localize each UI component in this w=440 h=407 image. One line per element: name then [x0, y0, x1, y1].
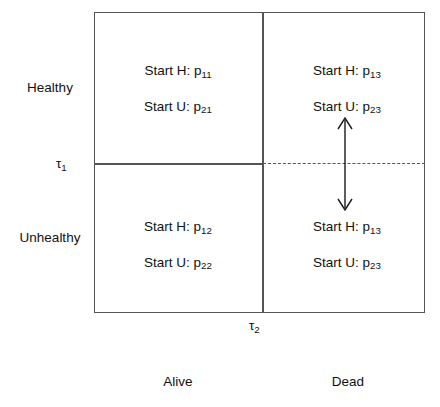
quadrant-top-right: Start H: p13 Start U: p23	[263, 64, 431, 113]
quadrant-top-left: Start H: p11 Start U: p21	[94, 64, 262, 113]
quadrant-top-left-start-h: Start H: p11	[94, 64, 262, 78]
start-h-subscript: 13	[370, 69, 381, 80]
start-u-subscript: 22	[201, 260, 212, 271]
quadrant-bottom-left-start-u: Start U: p22	[94, 256, 262, 270]
quadrant-bottom-left: Start H: p12 Start U: p22	[94, 220, 262, 269]
tau1-subscript: 1	[61, 162, 66, 173]
column-label-dead: Dead	[300, 374, 396, 389]
start-u-label: Start U: p	[313, 255, 370, 270]
start-u-label: Start U: p	[144, 255, 201, 270]
quadrant-bottom-right-start-u: Start U: p23	[263, 256, 431, 270]
quadrant-bottom-right-start-h: Start H: p13	[263, 220, 431, 234]
quadrant-bottom-right: Start H: p13 Start U: p23	[263, 220, 431, 269]
quadrant-top-right-start-h: Start H: p13	[263, 64, 431, 78]
column-label-dead-text: Dead	[332, 374, 364, 389]
quadrant-bottom-left-start-h: Start H: p12	[94, 220, 262, 234]
start-h-subscript: 12	[201, 225, 212, 236]
start-h-label: Start H: p	[313, 219, 370, 234]
start-u-subscript: 23	[370, 104, 381, 115]
row-label-healthy: Healthy	[10, 80, 90, 95]
threshold-label-tau1: τ1	[56, 156, 67, 171]
start-h-label: Start H: p	[313, 63, 370, 78]
double-headed-arrow-icon	[327, 112, 363, 216]
tau2-subscript: 2	[254, 324, 259, 335]
row-label-unhealthy-text: Unhealthy	[20, 230, 81, 245]
start-u-label: Start U: p	[144, 99, 201, 114]
quadrant-diagram: Healthy Unhealthy τ1 τ2 Start H: p11 Sta…	[0, 0, 440, 407]
horizontal-divider-solid-tau1	[94, 163, 263, 165]
column-label-alive: Alive	[130, 374, 226, 389]
start-u-subscript: 21	[201, 104, 212, 115]
start-h-subscript: 13	[370, 225, 381, 236]
quadrant-top-right-start-u: Start U: p23	[263, 100, 431, 114]
start-h-subscript: 11	[201, 69, 211, 80]
threshold-label-tau2: τ2	[249, 318, 260, 333]
column-label-alive-text: Alive	[163, 374, 192, 389]
start-u-subscript: 23	[370, 260, 381, 271]
row-label-healthy-text: Healthy	[27, 80, 73, 95]
start-h-label: Start H: p	[144, 63, 201, 78]
quadrant-top-left-start-u: Start U: p21	[94, 100, 262, 114]
row-label-unhealthy: Unhealthy	[4, 230, 96, 245]
start-h-label: Start H: p	[144, 219, 201, 234]
